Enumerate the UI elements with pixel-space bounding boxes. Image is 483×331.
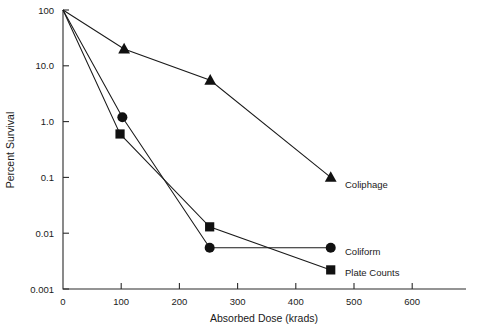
series-label-coliform: Coliform	[345, 246, 380, 257]
x-tick-label: 300	[230, 296, 246, 307]
series-line-coliphage	[63, 10, 331, 177]
series-line-coliform	[63, 10, 331, 248]
y-tick-label: 1.0	[41, 116, 54, 127]
x-tick-label: 0	[60, 296, 65, 307]
series-lines	[63, 10, 331, 270]
y-tick-label: 0.001	[30, 284, 54, 295]
data-point-plate-counts	[205, 222, 214, 231]
x-axis-tick-labels: 0100200300400500600	[60, 296, 420, 307]
data-point-plate-counts	[115, 129, 124, 138]
y-tick-label: 0.01	[36, 228, 55, 239]
series-markers	[115, 43, 336, 275]
x-axis-title: Absorbed Dose (krads)	[210, 312, 318, 324]
data-point-coliform	[326, 243, 336, 253]
data-point-coliform	[117, 112, 127, 122]
data-point-plate-counts	[326, 265, 335, 274]
x-tick-label: 400	[288, 296, 304, 307]
survival-log-plot: 10010.01.00.10.010.001 01002003004005006…	[0, 0, 483, 331]
x-tick-label: 100	[113, 296, 129, 307]
data-point-coliphage	[325, 171, 337, 182]
data-point-coliphage	[118, 43, 130, 54]
chart-container: 10010.01.00.10.010.001 01002003004005006…	[0, 0, 483, 331]
x-axis-ticks	[121, 283, 412, 289]
y-axis-title: Percent Survival	[4, 112, 16, 188]
y-tick-label: 100	[38, 5, 54, 16]
y-tick-label: 10.0	[36, 60, 55, 71]
data-point-coliphage	[204, 74, 216, 85]
data-point-coliform	[205, 243, 215, 253]
x-tick-label: 600	[404, 296, 420, 307]
y-axis-ticks	[63, 10, 69, 289]
series-label-coliphage: Coliphage	[345, 179, 388, 190]
series-line-plate-counts	[63, 10, 331, 270]
y-axis-tick-labels: 10010.01.00.10.010.001	[30, 5, 54, 295]
y-tick-label: 0.1	[41, 172, 54, 183]
x-tick-label: 500	[346, 296, 362, 307]
x-tick-label: 200	[171, 296, 187, 307]
series-label-plate-counts: Plate Counts	[345, 267, 400, 278]
